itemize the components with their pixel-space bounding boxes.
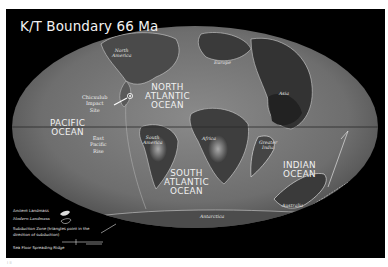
south-atlantic-ocean-label: SOUTH ATLANTIC OCEAN: [164, 169, 209, 197]
asia-label: Asia: [279, 92, 289, 97]
ancient-landmass-swatch: [60, 211, 70, 216]
indian-ocean-label: INDIAN OCEAN: [283, 161, 316, 179]
footnote: i ii: [7, 260, 12, 265]
legend-subduction-zone-line1: Subduction Zone (triangles point in the: [13, 226, 89, 231]
legend-subduction-zone-line2: direction of subduction): [13, 232, 59, 237]
europe-label: Europe: [214, 61, 231, 66]
legend-ancient-landmass: Ancient Landmass: [13, 208, 49, 213]
map-panel: K/T Boundary 66 Ma PACIFIC OCEAN NORTH A…: [6, 9, 385, 258]
chicxulub-impact-site-label: Chicxulub Impact Site: [82, 94, 108, 113]
south-america-label: South America: [143, 136, 162, 146]
east-pacific-rise-label: East Pacific Rise: [90, 135, 107, 154]
modern-landmass-swatch: [61, 219, 71, 224]
antarctica-label: Antarctica: [200, 215, 224, 220]
africa-label: Africa: [202, 137, 216, 142]
greater-india-label: Greater India: [259, 141, 277, 151]
pacific-ocean-label: PACIFIC OCEAN: [50, 119, 85, 137]
north-america-label: North America: [112, 49, 131, 59]
australia-label: Australia: [282, 204, 303, 209]
map-title: K/T Boundary 66 Ma: [20, 18, 158, 34]
north-atlantic-ocean-label: NORTH ATLANTIC OCEAN: [145, 83, 190, 111]
subduction-zone-swatch: [101, 224, 116, 233]
legend-modern-landmass: Modern Landmass: [13, 216, 50, 221]
legend-sea-floor-spreading: Sea Floor Spreading Ridge: [13, 245, 64, 250]
